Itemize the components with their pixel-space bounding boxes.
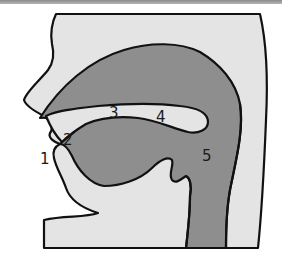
label-3-alveolar-ridge: 3 xyxy=(109,106,119,121)
vocal-tract-illustration xyxy=(0,0,282,258)
label-2-teeth: 2 xyxy=(63,133,73,148)
label-4-palate: 4 xyxy=(156,110,166,125)
label-1-lips: 1 xyxy=(40,152,50,167)
label-5-pharynx: 5 xyxy=(202,149,212,164)
vocal-tract-diagram: 1 2 3 4 5 xyxy=(0,0,282,258)
